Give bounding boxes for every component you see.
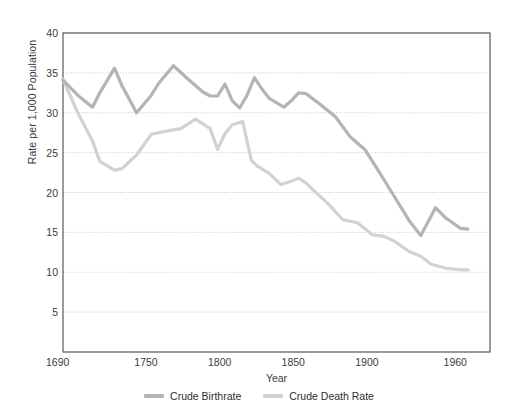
legend-swatch-icon: [263, 394, 283, 398]
legend-item-crude-death-rate[interactable]: Crude Death Rate: [263, 390, 374, 402]
y-tick-label: 5: [30, 306, 58, 318]
chart-container: Rate per 1,000 Population 51015202530354…: [0, 0, 518, 411]
series-line-crude-birthrate: [63, 66, 468, 236]
legend-item-crude-birthrate[interactable]: Crude Birthrate: [144, 390, 241, 402]
y-tick-label: 20: [30, 187, 58, 199]
series-line-crude-death-rate: [63, 79, 468, 270]
legend-swatch-icon: [144, 394, 164, 398]
x-tick-label: 1960: [444, 356, 467, 368]
x-tick-label: 1850: [282, 356, 305, 368]
x-axis-title: Year: [63, 372, 490, 384]
plot-area: [0, 0, 518, 411]
y-tick-label: 30: [30, 107, 58, 119]
x-tick-label: 1750: [134, 356, 157, 368]
legend-label: Crude Death Rate: [289, 390, 374, 402]
y-axis-tick-labels: 510152025303540: [0, 0, 58, 411]
x-tick-label: 1900: [355, 356, 378, 368]
y-tick-label: 10: [30, 266, 58, 278]
x-tick-label: 1690: [46, 356, 69, 368]
chart-legend: Crude Birthrate Crude Death Rate: [0, 390, 518, 402]
y-tick-label: 40: [30, 27, 58, 39]
y-tick-label: 25: [30, 147, 58, 159]
y-tick-label: 15: [30, 226, 58, 238]
x-tick-label: 1800: [208, 356, 231, 368]
legend-label: Crude Birthrate: [170, 390, 241, 402]
y-tick-label: 35: [30, 67, 58, 79]
